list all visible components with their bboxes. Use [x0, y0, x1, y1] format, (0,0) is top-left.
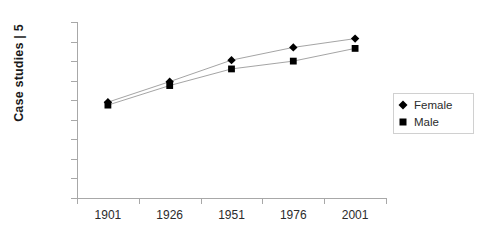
x-tick-mark	[201, 198, 202, 204]
legend: Female Male	[393, 93, 474, 134]
y-tick: 40	[0, 120, 77, 121]
square-marker-icon	[105, 102, 112, 109]
y-axis-line	[77, 22, 78, 199]
y-tick: 90	[0, 22, 77, 23]
y-tick: 80	[0, 42, 77, 43]
legend-label-male: Male	[414, 116, 439, 128]
diamond-marker-icon	[166, 77, 174, 85]
legend-item-male[interactable]: Male	[394, 113, 473, 131]
y-tick: 0	[0, 198, 77, 199]
square-marker-icon	[290, 58, 297, 65]
y-tick: 70	[0, 61, 77, 62]
x-tick-label: 2001	[325, 208, 385, 222]
x-tick-mark	[386, 198, 387, 204]
x-tick-label: 1901	[78, 208, 138, 222]
x-tick-label: 1951	[202, 208, 262, 222]
y-tick: 50	[0, 100, 77, 101]
x-tick-mark	[262, 198, 263, 204]
y-tick: 10	[0, 178, 77, 179]
legend-item-female[interactable]: Female	[394, 96, 473, 114]
series-female	[104, 34, 360, 106]
legend-label-female: Female	[414, 99, 452, 111]
square-marker-icon	[166, 82, 173, 89]
y-axis-title: Case studies | 5	[8, 13, 30, 133]
x-tick-mark	[139, 198, 140, 204]
x-axis-line	[77, 198, 387, 199]
x-tick-mark	[77, 198, 78, 204]
square-marker-icon	[228, 66, 235, 73]
diamond-marker-icon	[289, 43, 297, 51]
diamond-marker-icon	[394, 96, 414, 114]
x-tick-label: 1976	[263, 208, 323, 222]
square-marker-icon	[394, 113, 414, 131]
x-tick-mark	[324, 198, 325, 204]
diamond-marker-icon	[351, 34, 359, 42]
y-tick: 20	[0, 159, 77, 160]
series-male	[105, 45, 359, 109]
line-chart: Case studies | 5 9080706050403020100 190…	[0, 0, 494, 236]
series-line	[108, 39, 355, 103]
diamond-marker-icon	[104, 98, 112, 106]
series-line	[108, 48, 355, 105]
square-marker-icon	[352, 45, 359, 52]
x-tick-label: 1926	[140, 208, 200, 222]
diamond-marker-icon	[227, 56, 235, 64]
y-tick: 60	[0, 81, 77, 82]
y-tick: 30	[0, 139, 77, 140]
